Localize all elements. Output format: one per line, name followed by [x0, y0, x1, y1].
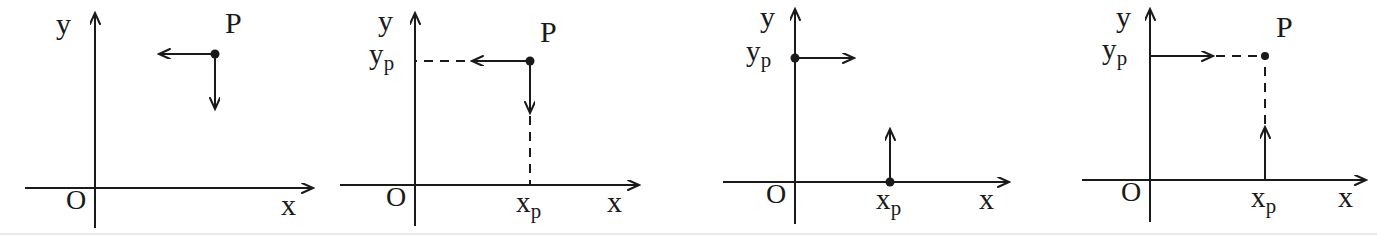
x-projection-label: xp	[516, 188, 541, 217]
x-axis-label: x	[607, 187, 622, 217]
y-axis-label: y	[56, 9, 71, 39]
point-p-dot	[1261, 52, 1269, 60]
x-projection-label-sub: p	[1266, 194, 1276, 218]
y-projection-label-sub: p	[384, 51, 394, 75]
bottom-edge-divider	[0, 233, 1377, 235]
y-projection-label: yp	[1102, 35, 1127, 64]
x-projection-label: xp	[1251, 183, 1276, 212]
panel-3: y x O yp xp	[705, 0, 1080, 235]
y-axis-label: y	[760, 2, 775, 32]
point-p-dot	[211, 50, 220, 59]
origin-label: O	[1121, 178, 1141, 206]
y-projection-label-sub: p	[761, 48, 771, 72]
origin-label: O	[386, 183, 406, 211]
y-projection-dot	[791, 54, 800, 63]
y-projection-label: yp	[746, 37, 771, 66]
x-axis-label: x	[979, 184, 994, 214]
x-axis-label: x	[281, 190, 296, 220]
origin-label: O	[766, 180, 786, 208]
x-projection-label-base: x	[516, 186, 531, 218]
x-axis-label: x	[1338, 182, 1353, 212]
point-p-label: P	[540, 17, 557, 47]
y-projection-label-base: y	[1102, 33, 1117, 65]
y-projection-label-base: y	[746, 35, 761, 67]
panel-2: y x O P yp xp	[335, 0, 705, 235]
point-p-dot	[526, 57, 535, 66]
origin-label: O	[66, 186, 86, 214]
y-projection-label-sub: p	[1117, 46, 1127, 70]
panel-4: y x O P yp xp	[1080, 0, 1377, 235]
y-axis-label: y	[1116, 2, 1131, 32]
x-projection-label-base: x	[876, 183, 891, 215]
y-axis-label: y	[378, 6, 393, 36]
y-projection-label-base: y	[369, 38, 384, 70]
point-p-label: P	[1276, 12, 1293, 42]
x-projection-label-sub: p	[531, 199, 541, 223]
y-projection-label: yp	[369, 40, 394, 69]
x-projection-label: xp	[876, 185, 901, 214]
panel-1: y x O P	[0, 0, 335, 235]
x-projection-label-base: x	[1251, 181, 1266, 213]
figure-root: y x O P y x O P yp	[0, 0, 1377, 235]
x-projection-label-sub: p	[891, 196, 901, 220]
point-p-label: P	[225, 8, 242, 38]
